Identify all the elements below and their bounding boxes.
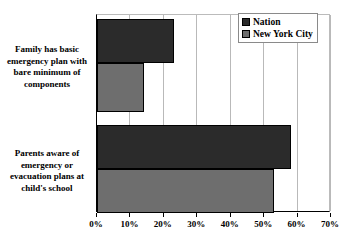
x-tick-20 — [163, 213, 164, 217]
gridline-70 — [330, 15, 331, 211]
x-tick-label-70: 70% — [310, 219, 345, 229]
legend-item-new-york-city: New York City — [242, 28, 313, 40]
gridline-60 — [297, 15, 298, 211]
category-label-1: Parents aware of emergency or evacuation… — [2, 148, 92, 194]
legend-label-new-york-city: New York City — [253, 28, 313, 40]
bar-chart: Family has basic emergency plan with bar… — [0, 0, 345, 245]
x-tick-0 — [96, 213, 97, 217]
bar-nation-0 — [97, 19, 174, 63]
x-tick-10 — [129, 213, 130, 217]
x-tick-70 — [330, 213, 331, 217]
legend: Nation New York City — [238, 13, 318, 43]
legend-item-nation: Nation — [242, 16, 313, 28]
plot-area — [96, 14, 330, 212]
legend-swatch-nation-icon — [242, 18, 250, 26]
x-tick-40 — [230, 213, 231, 217]
category-label-0: Family has basic emergency plan with bar… — [2, 44, 92, 90]
x-tick-30 — [196, 213, 197, 217]
bar-new-york-city-0 — [97, 63, 144, 112]
legend-swatch-new-york-city-icon — [242, 30, 250, 38]
bar-nation-1 — [97, 125, 291, 169]
legend-label-nation: Nation — [253, 16, 280, 28]
bar-new-york-city-1 — [97, 169, 274, 213]
x-tick-60 — [297, 213, 298, 217]
x-tick-50 — [263, 213, 264, 217]
